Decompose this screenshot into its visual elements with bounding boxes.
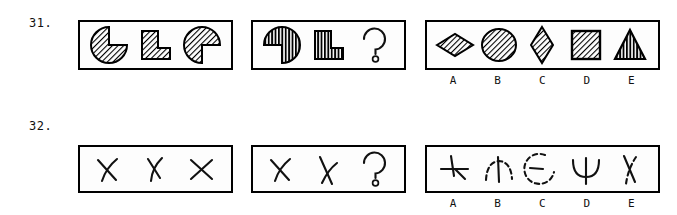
q31-letter-c: C: [521, 74, 563, 87]
x-cross-steep-icon: [307, 148, 349, 190]
q32-letter-c: C: [521, 197, 563, 210]
q32-seq-figure-2: [133, 147, 177, 191]
q32-seq-figure-3: [180, 147, 224, 191]
q31-option-b[interactable]: [478, 23, 520, 67]
l-shape-icon: [307, 24, 349, 66]
pacman-notch-upper-right-icon: [88, 24, 130, 66]
question-number-32: 32.: [29, 119, 52, 133]
cross-asterisk-icon: [434, 148, 476, 190]
q31-option-letters: A B C D E: [425, 74, 660, 92]
pacman-notch-lower-right-icon: [181, 24, 223, 66]
q32-seq-figure-1: [87, 147, 131, 191]
tall-diamond-icon: [521, 24, 563, 66]
q31-option-c[interactable]: [521, 23, 563, 67]
q32-problem-question-mark: [353, 147, 397, 191]
q31-letter-b: B: [477, 74, 519, 87]
l-shape-icon: [134, 24, 176, 66]
q32-option-a[interactable]: [434, 147, 476, 191]
q32-problem-panel: [251, 145, 406, 193]
q31-options-panel: [425, 20, 660, 70]
question-item-31: 31.: [0, 0, 677, 110]
q32-option-c[interactable]: [521, 147, 563, 191]
q32-sequence-panel: [78, 145, 233, 193]
circle-icon: [478, 24, 520, 66]
triangle-icon: [609, 24, 651, 66]
q31-problem-figure-2: [306, 23, 350, 67]
q32-options-panel: [425, 145, 660, 193]
x-cross-dashed-icon: [609, 148, 651, 190]
q32-problem-figure-2: [306, 147, 350, 191]
q31-letter-e: E: [611, 74, 653, 87]
q31-option-e[interactable]: [609, 23, 651, 67]
q32-option-e[interactable]: [609, 147, 651, 191]
square-icon: [565, 24, 607, 66]
q31-problem-figure-1: [260, 23, 304, 67]
question-mark-icon: [354, 148, 396, 190]
q31-letter-d: D: [566, 74, 608, 87]
q31-option-d[interactable]: [565, 23, 607, 67]
q31-sequence-panel: [78, 20, 233, 70]
broken-circle-with-line-icon: [521, 148, 563, 190]
q32-option-d[interactable]: [565, 147, 607, 191]
q32-option-letters: A B C D E: [425, 197, 660, 215]
x-cross-tilted-icon: [134, 148, 176, 190]
pacman-notch-lower-left-icon: [261, 24, 303, 66]
q31-problem-question-mark: [353, 23, 397, 67]
q31-letter-a: A: [432, 74, 474, 87]
q32-option-b[interactable]: [478, 147, 520, 191]
q32-problem-figure-1: [260, 147, 304, 191]
test-sheet: 31.: [0, 0, 677, 215]
x-cross-curved-icon: [88, 148, 130, 190]
x-cross-plain-icon: [181, 148, 223, 190]
arc-with-vertical-line-icon: [478, 148, 520, 190]
x-cross-curved-icon: [261, 148, 303, 190]
q31-seq-figure-1: [87, 23, 131, 67]
question-number-31: 31.: [29, 16, 52, 30]
q31-seq-figure-3: [180, 23, 224, 67]
q32-letter-e: E: [611, 197, 653, 210]
q31-option-a[interactable]: [434, 23, 476, 67]
q32-letter-a: A: [432, 197, 474, 210]
q32-letter-b: B: [477, 197, 519, 210]
question-mark-icon: [354, 24, 396, 66]
wide-diamond-icon: [434, 24, 476, 66]
psi-figure-icon: [565, 148, 607, 190]
question-item-32: 32.: [0, 110, 677, 215]
q31-problem-panel: [251, 20, 406, 70]
q31-seq-figure-2: [133, 23, 177, 67]
q32-letter-d: D: [566, 197, 608, 210]
